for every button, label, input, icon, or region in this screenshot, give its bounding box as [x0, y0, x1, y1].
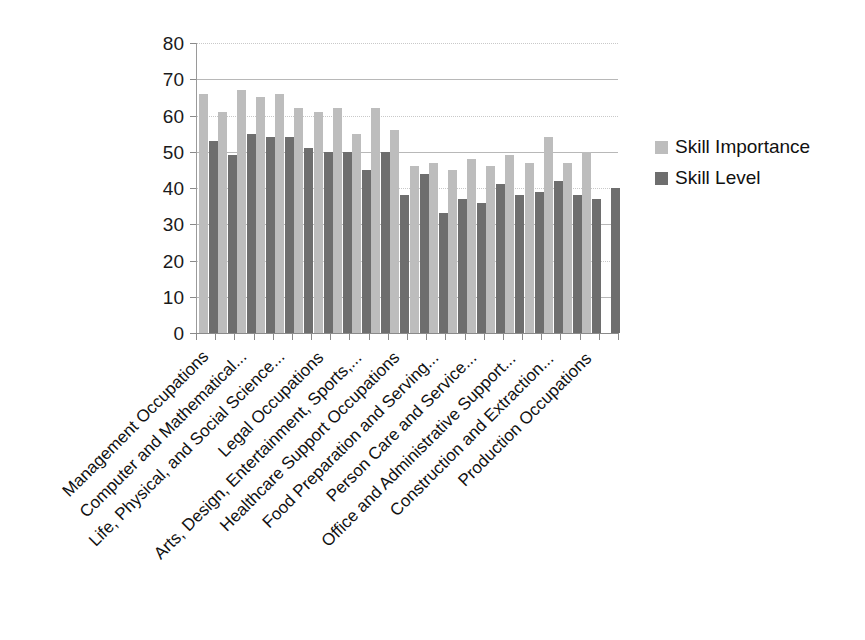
y-axis-tick-mark: [190, 224, 196, 225]
y-axis-tick-mark: [190, 297, 196, 298]
bar-skill-level[interactable]: [304, 148, 313, 333]
x-axis-tick-mark: [541, 333, 542, 340]
bar-skill-importance[interactable]: [486, 166, 495, 333]
bar-group[interactable]: [563, 43, 582, 333]
bar-group[interactable]: [256, 43, 275, 333]
bar-skill-level[interactable]: [362, 170, 371, 333]
bar-skill-importance[interactable]: [218, 112, 227, 333]
x-axis-tick-mark: [330, 333, 331, 340]
bar-skill-level[interactable]: [535, 192, 544, 333]
bar-skill-importance[interactable]: [563, 163, 572, 333]
bar-skill-importance[interactable]: [237, 90, 246, 333]
bar-skill-level[interactable]: [573, 195, 582, 333]
bar-skill-level[interactable]: [285, 137, 294, 333]
x-axis-tick-mark: [388, 333, 389, 340]
bar-group[interactable]: [352, 43, 371, 333]
bar-group[interactable]: [486, 43, 505, 333]
x-axis-tick-mark: [522, 333, 523, 340]
bar-group[interactable]: [294, 43, 313, 333]
x-axis-tick-mark: [273, 333, 274, 340]
bar-skill-level[interactable]: [400, 195, 409, 333]
bar-group[interactable]: [582, 43, 601, 333]
bar-group[interactable]: [544, 43, 563, 333]
bar-skill-importance[interactable]: [544, 137, 553, 333]
y-axis-tick-mark: [190, 43, 196, 44]
bar-skill-importance[interactable]: [448, 170, 457, 333]
x-axis-tick-mark: [580, 333, 581, 340]
y-axis-tick-label: 80: [163, 34, 184, 53]
bar-skill-level[interactable]: [228, 155, 237, 333]
x-axis-tick-mark: [445, 333, 446, 340]
x-axis-tick-mark: [311, 333, 312, 340]
x-axis-tick-mark: [292, 333, 293, 340]
bar-group[interactable]: [601, 43, 620, 333]
bar-skill-importance[interactable]: [352, 134, 361, 333]
bar-skill-level[interactable]: [381, 152, 390, 333]
y-axis-tick-label: 30: [163, 215, 184, 234]
bar-group[interactable]: [275, 43, 294, 333]
y-axis-tick-label: 70: [163, 70, 184, 89]
bar-group[interactable]: [314, 43, 333, 333]
bar-skill-importance[interactable]: [582, 152, 591, 333]
bar-skill-importance[interactable]: [275, 94, 284, 333]
y-axis-tick-mark: [190, 261, 196, 262]
bar-skill-level[interactable]: [324, 152, 333, 333]
bar-group[interactable]: [237, 43, 256, 333]
y-axis-tick-label: 10: [163, 287, 184, 306]
bar-group[interactable]: [410, 43, 429, 333]
legend-item[interactable]: Skill Importance: [655, 136, 845, 158]
bar-skill-level[interactable]: [592, 199, 601, 333]
bar-group[interactable]: [371, 43, 390, 333]
x-axis-tick-mark: [465, 333, 466, 340]
bar-group[interactable]: [525, 43, 544, 333]
y-axis-tick-label: 20: [163, 251, 184, 270]
bar-skill-level[interactable]: [515, 195, 524, 333]
bar-skill-level[interactable]: [611, 188, 620, 333]
plot-area: [196, 43, 618, 333]
bar-skill-importance[interactable]: [333, 108, 342, 333]
y-axis-tick-label: 0: [173, 324, 184, 343]
chart-legend: Skill ImportanceSkill Level: [655, 136, 845, 198]
bar-skill-level[interactable]: [420, 174, 429, 334]
x-axis-tick-mark: [254, 333, 255, 340]
x-axis-tick-mark: [426, 333, 427, 340]
bar-skill-level[interactable]: [439, 213, 448, 333]
bar-skill-level[interactable]: [496, 184, 505, 333]
bar-group[interactable]: [218, 43, 237, 333]
bar-skill-importance[interactable]: [371, 108, 380, 333]
bar-skill-importance[interactable]: [199, 94, 208, 333]
bar-skill-importance[interactable]: [410, 166, 419, 333]
bar-skill-level[interactable]: [343, 152, 352, 333]
bar-group[interactable]: [448, 43, 467, 333]
bar-skill-importance[interactable]: [294, 108, 303, 333]
bar-skill-level[interactable]: [209, 141, 218, 333]
bar-skill-level[interactable]: [247, 134, 256, 333]
bar-group[interactable]: [199, 43, 218, 333]
x-axis-tick-mark: [349, 333, 350, 340]
y-axis-tick-mark: [190, 79, 196, 80]
bar-skill-importance[interactable]: [314, 112, 323, 333]
x-axis-tick-mark: [560, 333, 561, 340]
bar-skill-level[interactable]: [266, 137, 275, 333]
bar-skill-importance[interactable]: [467, 159, 476, 333]
bar-group[interactable]: [429, 43, 448, 333]
bar-skill-importance[interactable]: [390, 130, 399, 333]
bar-skill-level[interactable]: [477, 203, 486, 334]
bar-group[interactable]: [390, 43, 409, 333]
x-axis-tick-mark: [599, 333, 600, 340]
x-axis-tick-mark: [234, 333, 235, 340]
bar-skill-importance[interactable]: [505, 155, 514, 333]
bar-group[interactable]: [467, 43, 486, 333]
bar-skill-importance[interactable]: [525, 163, 534, 333]
bar-skill-importance[interactable]: [256, 97, 265, 333]
y-axis-tick-label: 50: [163, 142, 184, 161]
legend-item[interactable]: Skill Level: [655, 167, 845, 189]
bar-group[interactable]: [333, 43, 352, 333]
bar-group[interactable]: [505, 43, 524, 333]
bar-skill-importance[interactable]: [429, 163, 438, 333]
bar-skill-level[interactable]: [554, 181, 563, 333]
bar-skill-level[interactable]: [458, 199, 467, 333]
x-axis-tick-mark: [369, 333, 370, 340]
y-axis-tick-label: 40: [163, 179, 184, 198]
x-axis-tick-mark: [215, 333, 216, 340]
